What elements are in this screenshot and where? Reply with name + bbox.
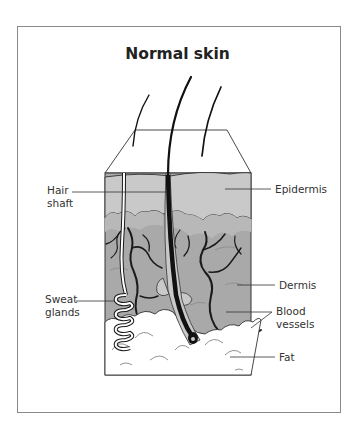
label-hair-shaft: Hair shaft [47, 184, 73, 210]
label-sweat-glands-line1: Sweat [45, 293, 80, 306]
label-blood-vessels-line1: Blood [276, 305, 314, 318]
skin-cross-section-illustration [0, 0, 355, 428]
blood-vessels-leader-line-2 [251, 312, 272, 328]
label-fat: Fat [279, 351, 295, 364]
label-blood-vessels-line2: vessels [276, 318, 314, 331]
skin-surface [105, 130, 251, 173]
label-dermis: Dermis [279, 279, 316, 292]
label-hair-shaft-line2: shaft [47, 197, 73, 210]
label-hair-shaft-line1: Hair [47, 184, 73, 197]
label-sweat-glands: Sweat glands [45, 293, 80, 319]
label-sweat-glands-line2: glands [45, 306, 80, 319]
label-blood-vessels: Blood vessels [276, 305, 314, 331]
label-epidermis: Epidermis [275, 183, 327, 196]
